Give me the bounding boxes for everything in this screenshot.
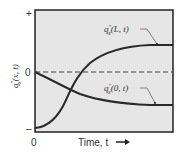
y-tick-zero: 0 xyxy=(25,67,31,78)
y-axis-label: q″x(x, t) xyxy=(10,64,22,88)
series-qL-marker xyxy=(156,43,158,45)
x-axis-label: Time, t xyxy=(78,137,108,148)
series-q0-marker xyxy=(154,102,156,104)
chart: q″x(L, t) q″x(0, t) + 0 – q″x(x, t) 0 Ti… xyxy=(0,0,183,154)
y-tick-plus: + xyxy=(26,8,32,19)
x-axis-arrow-icon xyxy=(116,139,130,145)
svg-text:q″x(x, t): q″x(x, t) xyxy=(10,64,22,88)
x-tick-zero: 0 xyxy=(31,137,37,148)
y-tick-minus: – xyxy=(26,123,32,134)
